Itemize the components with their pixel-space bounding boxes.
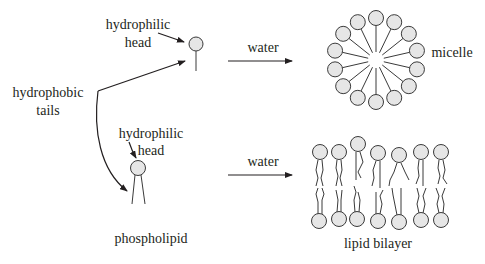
micelle-head-icon (369, 11, 384, 26)
bilayer-head-icon (371, 146, 386, 161)
micelle-tail (384, 62, 410, 68)
micelle-structure (328, 11, 425, 110)
bilayer-head-icon (350, 212, 365, 227)
hydrophilic-head-icon (189, 37, 203, 51)
bilayer-head-icon (392, 148, 407, 163)
top-phospholipid-single-tail (189, 37, 203, 71)
micelle-head-icon (369, 95, 384, 110)
bilayer-head-icon (312, 214, 327, 229)
micelle-head-icon (350, 15, 365, 30)
lipid-bilayer-label: lipid bilayer (344, 236, 412, 251)
top-head-pointer-arrow (158, 33, 184, 42)
top-head-label-line2: head (125, 35, 151, 50)
bilayer-tail (417, 188, 419, 213)
bilayer-tail (423, 188, 426, 213)
bilayer-tail (389, 163, 397, 186)
bilayer-tail (358, 192, 360, 212)
bilayer-tail (380, 190, 383, 214)
micelle-head-icon (401, 26, 416, 41)
phospholipid-molecule (131, 161, 146, 205)
bilayer-tail (316, 160, 318, 186)
micelle-label: micelle (431, 45, 472, 60)
bilayer-tail (340, 160, 342, 186)
lipid-bilayer-structure (312, 137, 449, 230)
bilayer-head-icon (434, 145, 449, 160)
bilayer-tail (443, 160, 447, 184)
bottom-head-label-line2: head (138, 143, 164, 158)
bilayer-tail (392, 188, 397, 215)
hydrophilic-head-icon (131, 161, 146, 176)
micelle-head-icon (336, 26, 351, 41)
bilayer-tail (401, 163, 409, 180)
bilayer-tail (372, 161, 376, 186)
bilayer-tail (316, 188, 318, 214)
tail-left (132, 175, 135, 204)
bilayer-head-icon (351, 137, 366, 152)
bottom-head-pointer-arrow (129, 142, 136, 158)
tails-pointer-arrow-top (98, 61, 185, 91)
tails-pointer-arrow-bottom (97, 91, 127, 191)
micelle-head-icon (350, 90, 365, 105)
bilayer-tail (438, 160, 440, 184)
lipid-diagram: hydrophilic head hydrophobic tails hydro… (0, 0, 485, 264)
bilayer-tail (336, 160, 338, 186)
micelle-tail (384, 52, 410, 58)
bilayer-tail (358, 152, 363, 178)
micelle-tail (342, 52, 368, 58)
bilayer-tail (436, 188, 439, 213)
tails-label-line2: tails (36, 103, 59, 118)
phospholipid-label: phospholipid (114, 231, 187, 246)
bilayer-tail (321, 160, 323, 186)
bilayer-head-icon (414, 213, 429, 228)
bilayer-head-icon (371, 214, 386, 229)
bilayer-tail (336, 190, 338, 212)
micelle-head-icon (409, 62, 424, 77)
bilayer-head-icon (434, 213, 449, 228)
bottom-hydrophilic-label-line1: hydrophilic (119, 126, 184, 141)
bilayer-tail (442, 188, 445, 213)
micelle-tail (342, 62, 368, 68)
micelle-head-icon (336, 79, 351, 94)
bilayer-head-icon (392, 215, 407, 230)
bilayer-tail (416, 160, 419, 184)
micelle-head-icon (387, 90, 402, 105)
micelle-head-icon (328, 62, 343, 77)
water-label-top: water (247, 40, 278, 55)
water-label-bottom: water (247, 154, 278, 169)
tail-right (141, 175, 145, 204)
bilayer-tail (354, 186, 356, 212)
micelle-head-icon (409, 43, 424, 58)
bilayer-tail (341, 190, 342, 212)
hydrophobic-label-line1: hydrophobic (13, 85, 84, 100)
top-hydrophilic-label-line1: hydrophilic (106, 17, 171, 32)
micelle-head-icon (387, 15, 402, 30)
micelle-head-icon (328, 43, 343, 58)
bilayer-head-icon (332, 212, 347, 227)
diagram-canvas: hydrophilic head hydrophobic tails hydro… (0, 0, 485, 264)
bilayer-head-icon (313, 145, 328, 160)
bilayer-head-icon (414, 145, 429, 160)
bilayer-tail (322, 188, 324, 214)
bilayer-head-icon (332, 145, 347, 160)
micelle-head-icon (401, 79, 416, 94)
